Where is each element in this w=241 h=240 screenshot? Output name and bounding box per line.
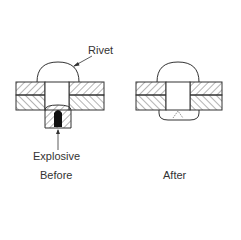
bottom-plate-left-before [16, 95, 45, 110]
bottom-plate-right-before [69, 95, 104, 110]
explosive-charge [54, 110, 62, 127]
rivet-bulge-after [159, 110, 199, 120]
rivet-head-after [157, 62, 199, 82]
before-caption: Before [40, 169, 72, 181]
top-plate-right-after [190, 82, 222, 95]
explosive-label: Explosive [33, 150, 80, 162]
before-diagram [16, 56, 104, 150]
explosive-arrowhead [56, 129, 60, 134]
rivet-label: Rivet [88, 44, 113, 56]
rivet-shank-after [166, 82, 190, 110]
after-caption: After [163, 169, 186, 181]
top-plate-right-before [69, 82, 104, 95]
after-diagram [136, 62, 222, 120]
top-plate-left-after [136, 82, 166, 95]
bottom-plate-left-after [136, 95, 166, 110]
rivet-head-before [37, 62, 79, 82]
top-plate-left-before [16, 82, 45, 95]
rivet-arrowhead [73, 62, 80, 67]
bottom-plate-right-after [190, 95, 222, 110]
